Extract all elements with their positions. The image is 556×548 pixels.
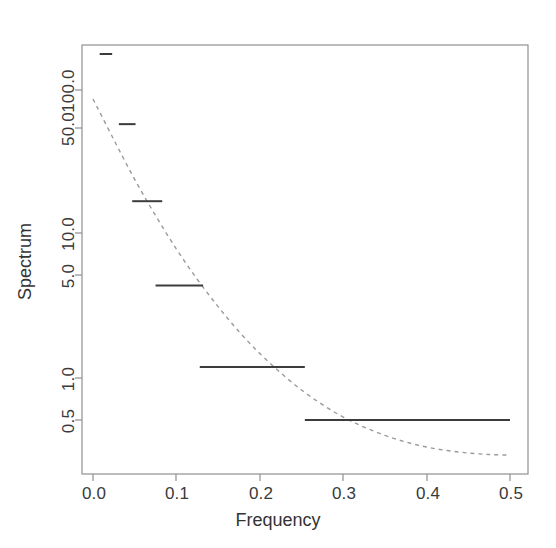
x-tick-label-2: 0.2 [243, 484, 279, 504]
x-tick-label-3: 0.3 [326, 484, 362, 504]
y-tick-label-5: 5.0 [59, 254, 79, 298]
y-axis-title: Spectrum [15, 212, 36, 312]
y-tick-label-1: 1.0 [59, 357, 79, 401]
x-axis-title: Frequency [228, 510, 328, 531]
y-tick-label-0p5: 0.5 [59, 399, 79, 443]
periodogram-step-series [100, 54, 510, 420]
x-tick-label-4: 0.4 [410, 484, 446, 504]
y-tick-label-10: 10.0 [59, 208, 79, 260]
theoretical-density-curve [93, 99, 510, 455]
x-tick-label-0: 0.0 [76, 484, 112, 504]
plot-frame-box [82, 45, 528, 474]
x-tick-label-1: 0.1 [159, 484, 195, 504]
spectrum-plot-figure: 0.0 0.1 0.2 0.3 0.4 0.5 100.0 50.0 10.0 … [0, 0, 556, 548]
plot-canvas [0, 0, 556, 548]
y-tick-label-50: 50.0 [59, 103, 79, 155]
x-tick-label-5: 0.5 [493, 484, 529, 504]
x-axis-ticks [93, 474, 510, 481]
